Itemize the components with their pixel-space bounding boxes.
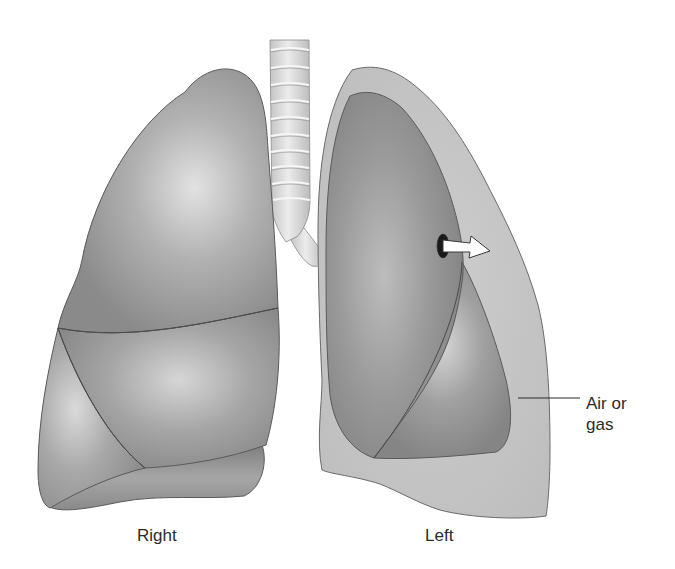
trachea (270, 40, 324, 266)
right-lung-label: Right (137, 525, 177, 546)
left-lung-label: Left (425, 525, 453, 546)
trachea-tube (270, 40, 310, 242)
air-or-gas-label-line2: gas (586, 415, 613, 434)
air-or-gas-label: Air orgas (586, 393, 627, 435)
right-lung (38, 69, 279, 510)
left-lung (318, 67, 550, 518)
right-upper-lobe (58, 69, 278, 333)
pneumothorax-illustration (0, 0, 675, 569)
air-or-gas-label-line1: Air or (586, 394, 627, 413)
